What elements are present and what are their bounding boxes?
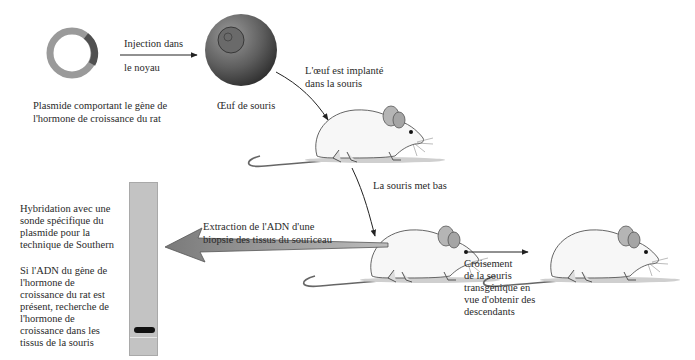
hybridation-line-3: plasmide pour la	[20, 227, 90, 240]
crossing-line-4: vue d'obtenir des	[464, 294, 535, 307]
crossing-line-5: descendants	[464, 306, 515, 319]
crossing-line-1: Croisement	[464, 258, 512, 271]
dna-band	[134, 327, 155, 333]
plasmid-caption-2: l'hormone de croissance du rat	[33, 113, 161, 126]
detection-line-6: croissance dans les	[20, 325, 100, 338]
detection-line-2: l'hormone de	[20, 277, 75, 290]
detection-line-4: présent, recherche de	[20, 301, 109, 314]
southern-blot-gel	[129, 182, 158, 356]
mouse-icon-recipient	[249, 106, 445, 166]
crossing-line-3: transgénique en	[464, 282, 530, 295]
injection-label-1: Injection dans	[124, 38, 183, 51]
injection-label-2: le noyau	[124, 62, 160, 75]
birth-arrow	[352, 168, 375, 236]
hybridation-line-4: technique de Southern	[20, 239, 114, 252]
detection-line-1: Si l'ADN du gène de	[20, 265, 107, 278]
hybridation-line-1: Hybridation avec une	[20, 203, 110, 216]
detection-line-5: l'hormone de	[20, 313, 75, 326]
plasmid-caption-1: Plasmide comportant le gène de	[33, 100, 167, 113]
hybridation-line-2: sonde spécifique du	[20, 215, 103, 228]
extraction-label-1: Extraction de l'ADN d'une	[203, 221, 314, 234]
plasmid-icon	[50, 31, 95, 75]
implant-label-2: dans la souris	[305, 78, 362, 91]
birth-label: La souris met bas	[373, 180, 447, 193]
mouse-icon-descendant	[484, 226, 680, 286]
implant-label-1: L'œuf est implanté	[305, 65, 383, 78]
crossing-line-2: de la souris	[464, 270, 512, 283]
gel-line	[130, 337, 157, 338]
extraction-label-2: biopsie des tissus du souriceau	[203, 234, 332, 247]
detection-line-3: croissance du rat est	[20, 289, 105, 302]
egg-icon	[205, 14, 277, 86]
detection-line-7: tissus de la souris	[20, 337, 94, 350]
egg-caption: Œuf de souris	[217, 100, 275, 113]
